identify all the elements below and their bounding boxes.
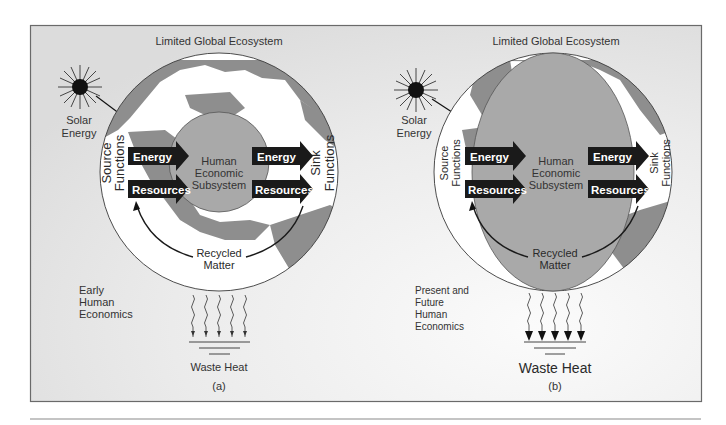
waste-heat-label-b: Waste Heat	[519, 360, 592, 376]
era-label-line4: Economics	[415, 321, 464, 332]
center-label-line2: Economic	[532, 167, 581, 179]
caption-b: (b)	[548, 380, 561, 392]
ecosystem-figure: Limited Global Ecosystem Solar Energy	[0, 0, 726, 425]
sink-label-line1: Sink	[648, 152, 660, 174]
source-label-line1: Source	[438, 146, 450, 181]
center-label-line2: Economic	[195, 167, 244, 179]
era-label-line2: Future	[415, 297, 444, 308]
recycled-label-line1: Recycled	[196, 247, 241, 259]
solar-energy-label-line2: Energy	[397, 127, 432, 139]
sink-label-line2: Functions	[322, 134, 337, 191]
solar-energy-label-line1: Solar	[66, 114, 92, 126]
solar-energy-label-line2: Energy	[62, 127, 97, 139]
caption-a: (a)	[212, 380, 225, 392]
source-label-line2: Functions	[112, 134, 127, 191]
svg-text:Resources: Resources	[468, 184, 527, 196]
era-label-line3: Economics	[79, 308, 133, 320]
svg-text:Resources: Resources	[132, 184, 191, 196]
svg-text:Energy: Energy	[257, 151, 297, 163]
era-label-line2: Human	[79, 296, 114, 308]
waste-heat-label-a: Waste Heat	[190, 361, 247, 373]
panel-a-title: Limited Global Ecosystem	[155, 35, 282, 47]
era-label-line1: Present and	[415, 285, 469, 296]
svg-text:Energy: Energy	[470, 151, 510, 163]
panel-b-title: Limited Global Ecosystem	[492, 35, 619, 47]
recycled-label-line2: Matter	[203, 259, 235, 271]
recycled-label-line1: Recycled	[532, 247, 577, 259]
center-label-line1: Human	[538, 155, 573, 167]
recycled-label-line2: Matter	[539, 259, 571, 271]
center-label-line3: Subsystem	[192, 179, 246, 191]
svg-text:Resources: Resources	[591, 184, 650, 196]
center-label-line3: Subsystem	[529, 179, 583, 191]
svg-text:Energy: Energy	[593, 151, 633, 163]
svg-text:Energy: Energy	[133, 151, 173, 163]
source-label-line2: Functions	[450, 139, 462, 187]
solar-energy-label-line1: Solar	[401, 114, 427, 126]
center-label-line1: Human	[201, 155, 236, 167]
era-label-line1: Early	[79, 284, 105, 296]
era-label-line3: Human	[415, 309, 447, 320]
svg-text:Resources: Resources	[255, 184, 314, 196]
sink-label-line2: Functions	[660, 139, 672, 187]
